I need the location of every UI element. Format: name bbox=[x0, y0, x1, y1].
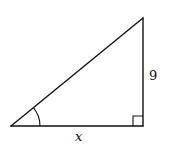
vertical-leg-label: 9 bbox=[149, 68, 157, 83]
right-triangle-diagram: 9 x bbox=[0, 0, 172, 148]
angle-arc-marker bbox=[33, 108, 40, 126]
horizontal-leg-label: x bbox=[75, 129, 83, 144]
hypotenuse bbox=[11, 18, 143, 126]
right-angle-marker bbox=[133, 116, 143, 126]
